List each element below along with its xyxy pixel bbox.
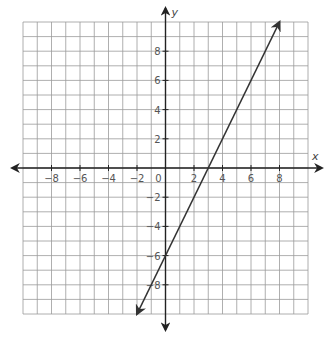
x-tick-label: −8 xyxy=(44,173,59,184)
x-tick-label: 6 xyxy=(248,173,254,184)
x-tick-label: −4 xyxy=(101,173,116,184)
y-tick-label: −2 xyxy=(146,192,161,203)
y-tick-label: −4 xyxy=(146,221,161,232)
x-tick-label: 4 xyxy=(219,173,225,184)
x-tick-label: 8 xyxy=(276,173,282,184)
y-axis-label: y xyxy=(171,6,179,19)
y-tick-label: 6 xyxy=(154,75,160,86)
x-tick-label: −2 xyxy=(130,173,145,184)
x-axis-label: x xyxy=(311,150,319,163)
x-tick-label: −6 xyxy=(73,173,88,184)
origin-label: 0 xyxy=(155,173,161,184)
axes: xy xyxy=(12,6,322,330)
coordinate-plane: xy −8−6−4−22468−8−6−4−224680 xyxy=(0,0,333,341)
y-tick-label: −6 xyxy=(146,251,161,262)
y-tick-label: 8 xyxy=(154,46,160,57)
x-tick-label: 2 xyxy=(191,173,197,184)
y-tick-label: 2 xyxy=(154,134,160,145)
y-tick-label: 4 xyxy=(154,105,160,116)
